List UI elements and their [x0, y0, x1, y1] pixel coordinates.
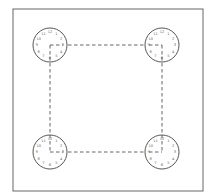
clock-number: 11: [153, 139, 158, 143]
clock-number: 5: [167, 161, 169, 165]
clock-number: 5: [55, 54, 57, 58]
clock-number: 12: [48, 30, 53, 34]
clock-hands: [50, 45, 162, 152]
clock-number: 7: [154, 54, 156, 58]
clock-number: 7: [154, 161, 156, 165]
clock-number: 7: [42, 54, 44, 58]
clock-number: 2: [60, 144, 62, 148]
clock-number: 5: [55, 161, 57, 165]
clock-number: 10: [36, 144, 41, 148]
clock-number: 3: [174, 150, 176, 154]
clock-number: 10: [36, 37, 41, 41]
clock-number: 2: [172, 37, 174, 41]
dashed-rectangle: [50, 45, 162, 152]
clock-number: 3: [174, 43, 176, 47]
clock-number: 11: [41, 139, 46, 143]
clock-number: 11: [41, 32, 46, 36]
clock-number: 12: [160, 30, 165, 34]
diagram-canvas: 1212345678910111212345678910111212345678…: [0, 0, 210, 196]
clock-number: 2: [60, 37, 62, 41]
clock-number: 1: [55, 139, 57, 143]
clock-number: 1: [55, 32, 57, 36]
clock-number: 1: [167, 139, 169, 143]
clock-number: 2: [172, 144, 174, 148]
clock-number: 1: [167, 32, 169, 36]
clock-number: 7: [42, 161, 44, 165]
clock-number: 10: [148, 144, 153, 148]
clock-number: 10: [148, 37, 153, 41]
clock-number: 11: [153, 32, 158, 36]
clock-number: 5: [167, 54, 169, 58]
